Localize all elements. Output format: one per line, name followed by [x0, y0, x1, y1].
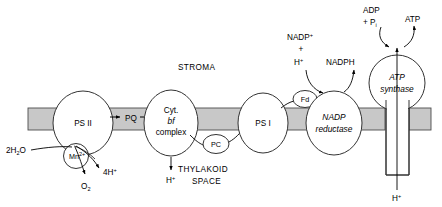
thylakoid-space-label-line1: THYLAKOID [178, 165, 228, 174]
plastocyanin-group: PC [190, 128, 244, 154]
photosystem-i-complex: PS I [238, 93, 288, 153]
nadp-reductase-body [306, 91, 362, 155]
nadp-reductase-label-line2: reductase [316, 124, 353, 134]
oxygen-label: O2 [81, 182, 91, 192]
atp-synthase-complex: ATP synthase H+ ADP + Pi ATP [363, 6, 425, 203]
stroma-proton-label: H+ [294, 57, 303, 67]
nadp-reductase-label-line1: NADP [322, 112, 346, 122]
adp-in-arrow [380, 27, 389, 47]
plus-sign-label: + [299, 45, 304, 54]
atp-out-arrow [404, 26, 414, 47]
nadp-in-arrow [306, 70, 323, 93]
nadp-reductase-complex: NADP reductase [306, 91, 362, 155]
bottom-proton-label: H+ [392, 193, 401, 203]
stroma-label: STROMA [178, 63, 216, 72]
water-splitting-group: Mn2+ 2H2O O2 4H+ [6, 144, 117, 193]
atp-synthase-joint-mask [387, 98, 408, 112]
water-label: 2H2O [6, 146, 26, 156]
nadp-plus-label: NADP+ [287, 32, 313, 42]
adp-label: ADP [363, 6, 380, 15]
pq-label: PQ [125, 114, 137, 123]
nadph-out-arrow [344, 70, 354, 92]
pc-label: PC [211, 140, 221, 149]
atp-product-label: ATP [405, 15, 421, 24]
diagram-canvas: PS II Mn2+ 2H2O O2 4H+ PQ Cy [0, 0, 442, 207]
lumen-proton-label: H+ [166, 175, 175, 185]
nadph-reaction-group: NADP+ + H+ NADPH [287, 32, 355, 93]
protons-released-label: 4H+ [103, 167, 117, 177]
membrane-segment-right [409, 108, 431, 130]
phosphate-label: + Pi [363, 18, 377, 28]
cytbf-label-line3: complex [156, 128, 187, 137]
cytbf-label-line1: Cyt. [164, 106, 179, 115]
ps2-label: PS II [74, 119, 92, 128]
thylakoid-membrane-diagram: PS II Mn2+ 2H2O O2 4H+ PQ Cy [0, 0, 442, 207]
ps1-label: PS I [255, 119, 270, 128]
thylakoid-space-label-line2: SPACE [192, 177, 221, 186]
fd-label: Fd [301, 95, 309, 104]
nadph-label: NADPH [326, 58, 355, 67]
